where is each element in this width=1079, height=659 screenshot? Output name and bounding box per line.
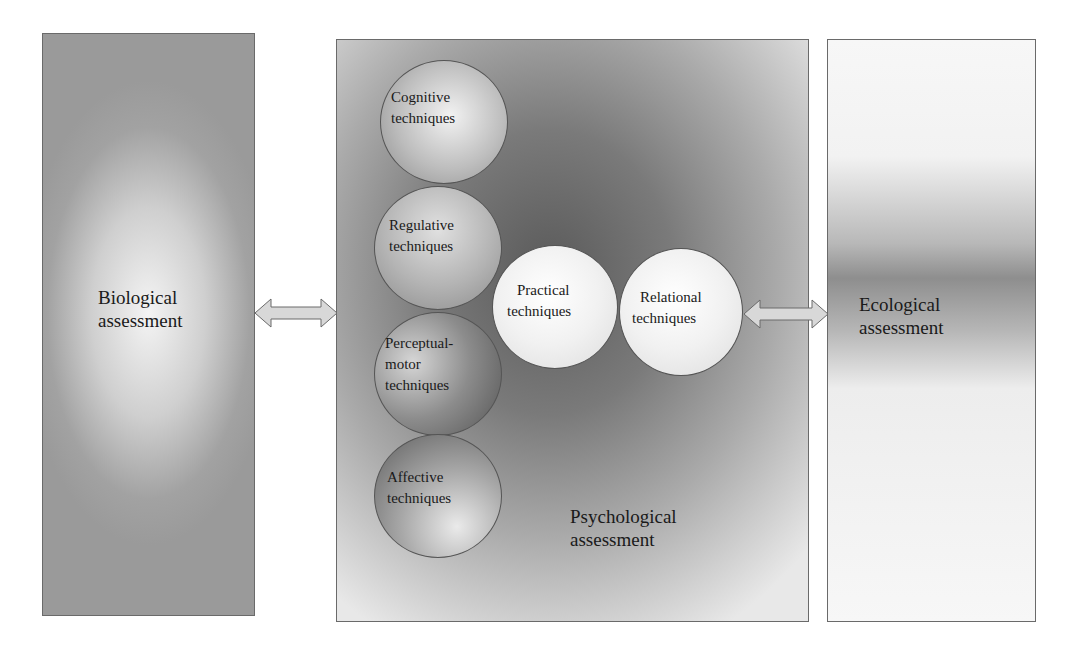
circle-label: Affective <box>387 467 443 488</box>
circle-label: techniques <box>385 375 449 396</box>
relational-techniques-circle: Relational techniques <box>619 248 743 376</box>
circle-label: Relational <box>640 287 702 308</box>
regulative-techniques-circle: Regulative techniques <box>374 186 502 310</box>
label-line: Biological <box>98 286 182 309</box>
circle-label: Perceptual- <box>385 333 453 354</box>
circle-label: techniques <box>507 301 571 322</box>
biological-assessment-label: Biological assessment <box>98 286 182 332</box>
psychological-assessment-label: Psychological assessment <box>570 505 677 551</box>
label-line: assessment <box>570 528 677 551</box>
double-arrow-icon <box>743 297 829 331</box>
circle-label: techniques <box>389 236 453 257</box>
label-line: Psychological <box>570 505 677 528</box>
circle-label: techniques <box>632 308 696 329</box>
affective-techniques-circle: Affective techniques <box>374 434 502 558</box>
circle-label: techniques <box>391 108 455 129</box>
circle-label: Practical <box>517 280 569 301</box>
label-line: assessment <box>98 309 182 332</box>
circle-label: Regulative <box>389 215 454 236</box>
label-line: Ecological <box>859 293 943 316</box>
circle-label: techniques <box>387 488 451 509</box>
circle-label: motor <box>385 354 421 375</box>
perceptual-motor-techniques-circle: Perceptual- motor techniques <box>374 312 502 436</box>
cognitive-techniques-circle: Cognitive techniques <box>380 60 508 184</box>
label-line: assessment <box>859 316 943 339</box>
ecological-assessment-label: Ecological assessment <box>859 293 943 339</box>
double-arrow-icon <box>254 296 338 330</box>
circle-label: Cognitive <box>391 87 450 108</box>
practical-techniques-circle: Practical techniques <box>492 245 618 369</box>
